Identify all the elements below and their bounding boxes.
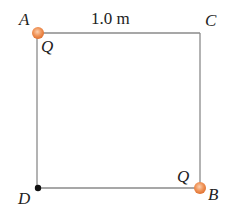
charge-label-b: Q bbox=[177, 167, 189, 186]
charge-label-a: Q bbox=[41, 37, 53, 56]
charge-a-icon bbox=[32, 27, 44, 39]
corner-label-c: C bbox=[205, 11, 217, 30]
corner-label-b: B bbox=[208, 185, 219, 204]
corner-label-d: D bbox=[17, 189, 31, 208]
side-length-label: 1.0 m bbox=[91, 9, 130, 28]
square-diagram: 1.0 m A C D B Q Q bbox=[0, 0, 227, 217]
corner-label-a: A bbox=[18, 10, 30, 29]
point-d-icon bbox=[35, 185, 41, 191]
charge-b-icon bbox=[194, 182, 206, 194]
